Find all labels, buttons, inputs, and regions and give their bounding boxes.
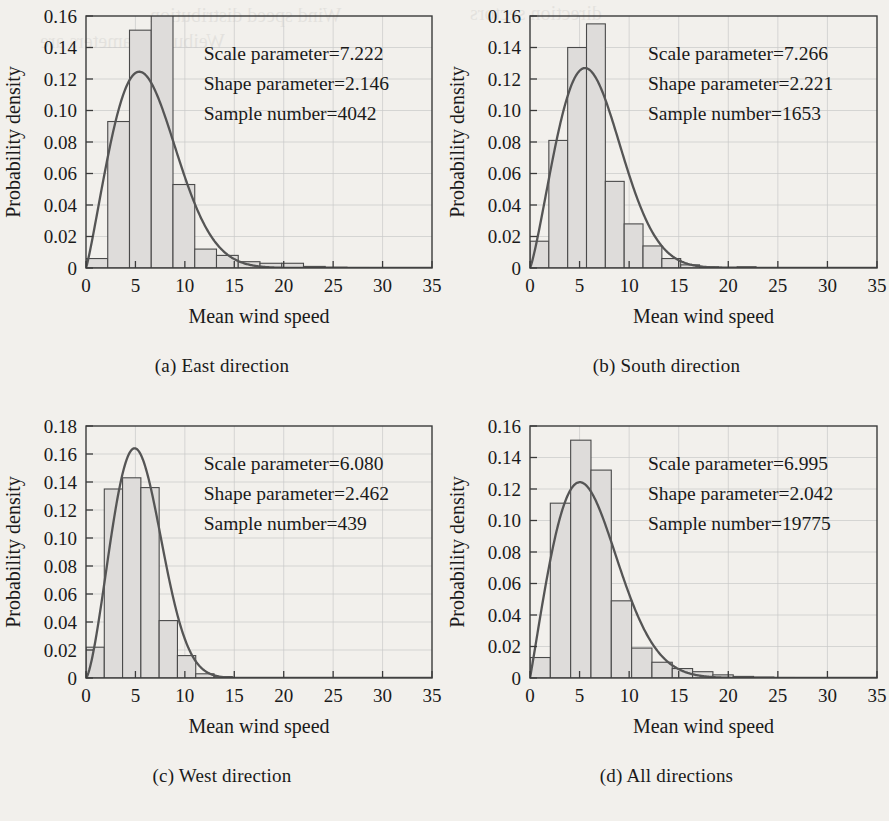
- x-tick-label: 20: [719, 685, 738, 706]
- annotation-line: Shape parameter=2.221: [648, 73, 833, 94]
- y-tick-label: 0.14: [44, 472, 78, 493]
- y-axis-label: Probability density: [446, 66, 469, 218]
- histogram-bar: [652, 662, 672, 678]
- y-tick-label: 0.08: [44, 132, 77, 153]
- y-tick-label: 0.12: [44, 69, 77, 90]
- histogram-bar: [591, 470, 611, 678]
- panel-c-caption: (c) West direction: [0, 765, 444, 787]
- histogram-bar: [611, 601, 631, 678]
- x-tick-label: 30: [373, 685, 392, 706]
- y-tick-label: 0: [68, 668, 78, 689]
- x-tick-label: 15: [669, 685, 688, 706]
- y-tick-label: 0.18: [44, 416, 77, 437]
- panel-a-chart: 00.020.040.060.080.100.120.140.160510152…: [0, 0, 444, 352]
- y-tick-label: 0.04: [488, 195, 522, 216]
- x-tick-label: 20: [274, 685, 293, 706]
- y-tick-label: 0.04: [488, 605, 522, 626]
- y-tick-label: 0.12: [44, 500, 77, 521]
- y-tick-label: 0.16: [44, 6, 77, 27]
- x-tick-label: 30: [818, 275, 837, 296]
- x-tick-label: 0: [525, 275, 535, 296]
- histogram-bars: [86, 478, 232, 678]
- histogram-bars: [530, 440, 794, 678]
- histogram-bar: [643, 246, 662, 268]
- histogram-bar: [159, 621, 177, 678]
- panel-c: 00.020.040.060.080.100.120.140.160.18051…: [0, 410, 444, 821]
- y-tick-label: 0.02: [44, 226, 77, 247]
- x-tick-label: 35: [423, 275, 442, 296]
- y-tick-label: 0.02: [488, 226, 521, 247]
- x-tick-label: 10: [175, 685, 194, 706]
- y-tick-label: 0.02: [44, 640, 77, 661]
- panel-a-plot: 00.020.040.060.080.100.120.140.160510152…: [0, 0, 444, 352]
- y-tick-label: 0.04: [44, 612, 78, 633]
- panel-b: 00.020.040.060.080.100.120.140.160510152…: [444, 0, 889, 410]
- parameter-annotation: Scale parameter=6.995Shape parameter=2.0…: [648, 453, 833, 534]
- y-tick-label: 0.04: [44, 195, 78, 216]
- x-axis-label: Mean wind speed: [633, 715, 774, 738]
- panel-b-chart: 00.020.040.060.080.100.120.140.160510152…: [444, 0, 889, 352]
- y-tick-label: 0.10: [44, 100, 77, 121]
- annotation-line: Sample number=1653: [648, 103, 821, 124]
- y-tick-label: 0: [68, 258, 78, 279]
- x-tick-label: 5: [131, 275, 141, 296]
- x-tick-label: 15: [225, 685, 244, 706]
- y-tick-label: 0.02: [488, 636, 521, 657]
- y-tick-label: 0.16: [488, 6, 521, 27]
- y-axis-label: Probability density: [2, 66, 25, 218]
- x-tick-label: 25: [324, 685, 343, 706]
- x-tick-label: 10: [620, 275, 639, 296]
- panel-b-plot: 00.020.040.060.080.100.120.140.160510152…: [444, 0, 889, 352]
- y-tick-label: 0.14: [488, 447, 522, 468]
- y-axis-label: Probability density: [2, 476, 25, 628]
- y-tick-label: 0.06: [488, 163, 521, 184]
- y-tick-label: 0: [512, 258, 522, 279]
- y-tick-label: 0.14: [488, 37, 522, 58]
- annotation-line: Scale parameter=7.266: [648, 43, 828, 64]
- histogram-bar: [571, 440, 591, 678]
- x-axis-label: Mean wind speed: [188, 715, 329, 738]
- histogram-bar: [151, 3, 173, 268]
- histogram-bar: [587, 24, 606, 268]
- x-tick-label: 0: [81, 685, 91, 706]
- x-tick-label: 35: [423, 685, 442, 706]
- y-tick-label: 0.06: [488, 573, 521, 594]
- panel-a: 00.020.040.060.080.100.120.140.160510152…: [0, 0, 444, 410]
- panel-d: 00.020.040.060.080.100.120.140.160510152…: [444, 410, 889, 821]
- y-tick-label: 0.16: [44, 444, 77, 465]
- annotation-line: Shape parameter=2.042: [648, 483, 833, 504]
- x-tick-label: 25: [768, 275, 787, 296]
- y-tick-label: 0.12: [488, 69, 521, 90]
- y-tick-label: 0.08: [488, 132, 521, 153]
- histogram-bar: [605, 181, 624, 268]
- x-tick-label: 0: [81, 275, 91, 296]
- panel-c-chart: 00.020.040.060.080.100.120.140.160.18051…: [0, 410, 444, 762]
- x-tick-label: 25: [768, 685, 787, 706]
- parameter-annotation: Scale parameter=7.266Shape parameter=2.2…: [648, 43, 833, 124]
- x-axis-label: Mean wind speed: [633, 305, 774, 328]
- panel-c-plot: 00.020.040.060.080.100.120.140.160.18051…: [0, 410, 444, 762]
- x-tick-label: 10: [620, 685, 639, 706]
- panel-a-caption: (a) East direction: [0, 355, 444, 377]
- histogram-bar: [550, 503, 570, 678]
- histogram-bar: [216, 255, 238, 268]
- x-tick-label: 30: [818, 685, 837, 706]
- annotation-line: Sample number=439: [204, 513, 367, 534]
- y-tick-label: 0.14: [44, 37, 78, 58]
- parameter-annotation: Scale parameter=6.080Shape parameter=2.4…: [204, 453, 389, 534]
- x-axis-label: Mean wind speed: [188, 305, 329, 328]
- y-tick-label: 0.12: [488, 479, 521, 500]
- histogram-bar: [86, 259, 108, 268]
- y-axis-label: Probability density: [446, 476, 469, 628]
- x-tick-label: 5: [131, 685, 141, 706]
- x-tick-label: 20: [274, 275, 293, 296]
- annotation-line: Scale parameter=6.995: [648, 453, 828, 474]
- histogram-bar: [632, 648, 652, 678]
- parameter-annotation: Scale parameter=7.222Shape parameter=2.1…: [204, 43, 390, 124]
- y-tick-label: 0.06: [44, 584, 77, 605]
- annotation-line: Shape parameter=2.146: [204, 73, 390, 94]
- histogram-bar: [129, 30, 151, 268]
- histogram-bar: [195, 249, 217, 268]
- x-tick-label: 35: [868, 685, 887, 706]
- x-tick-label: 35: [868, 275, 887, 296]
